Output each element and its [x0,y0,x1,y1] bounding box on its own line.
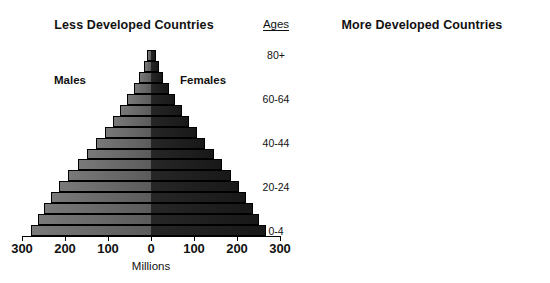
panel-less-developed: Less Developed Countries Males Females 3… [0,0,290,283]
males-half [22,50,151,61]
bar-females [151,116,189,127]
males-half [22,203,151,214]
males-half [22,214,151,225]
bar-females [151,127,197,138]
bar-males [144,61,151,72]
age-band-row [22,138,280,149]
age-band-row [22,159,280,170]
bar-males [120,105,151,116]
males-half [22,225,151,236]
bar-males [44,203,151,214]
bar-females [151,138,205,149]
panel-title-less-developed: Less Developed Countries [0,18,274,32]
bar-females [151,149,214,160]
bar-females [151,225,266,236]
x-axis-tick-label: 100 [97,241,119,256]
series-label-females-left: Females [180,74,226,86]
bar-males [68,170,151,181]
age-band-row [22,127,280,138]
bar-females [151,181,239,192]
males-half [22,181,151,192]
x-axis-tick-label: 300 [11,241,33,256]
bar-males [139,72,151,83]
bar-males [87,149,152,160]
bar-females [151,105,182,116]
age-band-row [22,170,280,181]
bar-females [151,203,253,214]
age-band-row [22,203,280,214]
males-half [22,72,151,83]
bar-females [151,192,246,203]
males-half [22,105,151,116]
panel-more-developed: More Developed Countries Males Females 3… [290,0,550,283]
age-band-row [22,105,280,116]
age-band-row [22,116,280,127]
males-half [22,83,151,94]
x-axis-tick-label: 200 [226,241,248,256]
plot-area-less-developed: Males Females [22,50,280,236]
bar-males [59,181,151,192]
age-band-row [22,192,280,203]
bar-males [127,94,151,105]
bar-females [151,72,163,83]
males-half [22,94,151,105]
bar-females [151,94,175,105]
males-half [22,192,151,203]
males-half [22,149,151,160]
x-axis-tick-labels-left: 3002001000100200300 [22,241,280,257]
males-half [22,138,151,149]
bar-females [151,159,222,170]
bar-females [151,170,231,181]
males-half [22,170,151,181]
males-half [22,116,151,127]
age-band-row [22,50,280,61]
males-half [22,127,151,138]
age-band-row [22,214,280,225]
bar-males [31,225,151,236]
bar-males [78,159,151,170]
males-half [22,159,151,170]
age-band-row [22,94,280,105]
males-half [22,61,151,72]
bar-females [151,50,156,61]
x-axis-title-left: Millions [22,260,280,272]
bar-females [151,83,169,94]
age-band-row [22,181,280,192]
series-label-males-left: Males [54,74,86,86]
bar-males [51,192,151,203]
bar-males [96,138,151,149]
population-pyramid-figure: Less Developed Countries Males Females 3… [0,0,550,283]
bar-males [113,116,151,127]
x-axis-tick-label: 0 [147,241,154,256]
age-band-row [22,61,280,72]
bar-females [151,61,159,72]
bar-males [134,83,151,94]
bar-females [151,214,259,225]
age-band-row [22,225,280,236]
x-axis-tick-label: 200 [54,241,76,256]
age-band-row [22,149,280,160]
x-axis-tick-label: 100 [183,241,205,256]
bar-males [105,127,151,138]
bar-males [38,214,151,225]
ages-axis-header-text: Ages [263,18,289,31]
panel-title-more-developed: More Developed Countries [302,18,542,32]
